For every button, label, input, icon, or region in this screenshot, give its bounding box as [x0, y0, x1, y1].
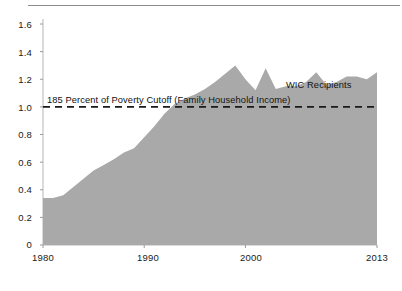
y-tick-label-1-2: 1.2: [6, 74, 32, 85]
y-tick-label-0-4: 0.4: [6, 184, 32, 195]
x-tick-label-1990: 1990: [128, 252, 168, 263]
poverty-cutoff-annotation: 185 Percent of Poverty Cutoff (Family Ho…: [47, 95, 291, 105]
y-tick-label-0-2: 0.2: [6, 212, 32, 223]
y-tick-label-0: 0: [6, 239, 32, 250]
y-tick-label-1-6: 1.6: [6, 19, 32, 30]
y-tick-label-0-6: 0.6: [6, 157, 32, 168]
y-tick-label-1-0: 1.0: [6, 102, 32, 113]
series-label-wic-recipients: WIC Recipients: [286, 80, 351, 90]
x-tick-label-2013: 2013: [357, 252, 397, 263]
x-tick-label-2000: 2000: [231, 252, 271, 263]
y-tick-label-1-4: 1.4: [6, 47, 32, 58]
x-tick-label-1980: 1980: [23, 252, 63, 263]
chart-figure: 1.6 1.4 1.2 1.0 0.8 0.6 0.4 0.2 0 1980 1…: [0, 0, 402, 291]
chart-plot-area: [0, 0, 402, 291]
y-tick-label-0-8: 0.8: [6, 129, 32, 140]
